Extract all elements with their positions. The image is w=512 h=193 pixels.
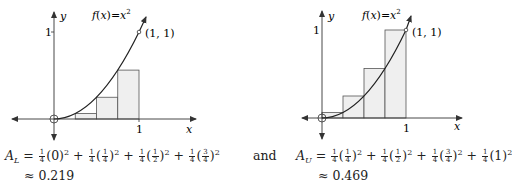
- svg-text:1: 1: [403, 122, 410, 135]
- equals-sign: =: [316, 148, 326, 163]
- coef-frac: 14: [139, 149, 145, 164]
- svg-text:f(x)=x2: f(x)=x2: [361, 8, 401, 22]
- svg-text:x: x: [186, 123, 193, 136]
- right-graph: y 1 1 x f(x)=x2 (1, 1): [302, 8, 462, 139]
- left-area-formula: AL = 14(0)2 + 14(14)2 + 14(12)2 + 14(34)…: [5, 146, 220, 168]
- svg-text:(1, 1): (1, 1): [412, 26, 442, 39]
- right-approx-value: ≈ 0.469: [318, 168, 368, 183]
- left-approx-value: ≈ 0.219: [24, 168, 74, 183]
- left-graph: y 1 1 x f(x)=x2 (1, 1): [12, 8, 196, 140]
- svg-text:y: y: [59, 10, 67, 23]
- svg-text:1: 1: [136, 123, 143, 136]
- svg-text:y: y: [327, 10, 335, 23]
- coef-frac: 14: [381, 149, 387, 164]
- coef-frac: 14: [89, 149, 95, 164]
- svg-text:1: 1: [313, 24, 320, 37]
- svg-text:1: 1: [45, 26, 52, 39]
- area-subscript: L: [14, 156, 19, 165]
- area-symbol: A: [296, 148, 305, 163]
- svg-text:(1, 1): (1, 1): [145, 27, 175, 40]
- left-rectangles: [75, 70, 139, 119]
- svg-text:f(x)=x2: f(x)=x2: [91, 8, 131, 22]
- area-subscript: U: [305, 156, 312, 165]
- svg-text:x: x: [454, 120, 461, 133]
- coef-frac: 14: [331, 149, 337, 164]
- area-symbol: A: [5, 148, 14, 163]
- equals-sign: =: [23, 148, 33, 163]
- coef-frac: 14: [39, 149, 45, 164]
- right-area-formula: AU = 14(14)2 + 14(12)2 + 14(34)2 + 14(1)…: [296, 146, 512, 168]
- right-rectangles: [322, 30, 406, 118]
- coef-frac: 14: [432, 149, 438, 164]
- connector-and: and: [253, 148, 277, 163]
- coef-frac: 14: [189, 149, 195, 164]
- coef-frac: 14: [482, 149, 488, 164]
